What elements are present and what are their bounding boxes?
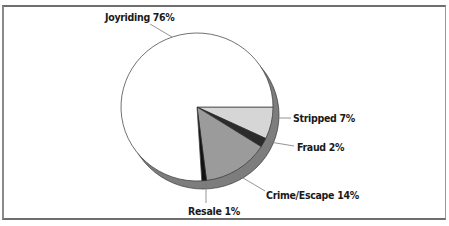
label-resale: Resale 1% (188, 205, 241, 217)
label-crime-escape: Crime/Escape 14% (266, 189, 360, 201)
pie-slices (121, 33, 273, 181)
label-joyriding: Joyriding 76% (104, 11, 175, 23)
label-stripped: Stripped 7% (293, 112, 356, 124)
leader-joyriding (150, 24, 172, 37)
leader-crime-escape (238, 175, 265, 191)
leader-fraud (270, 142, 294, 146)
label-fraud: Fraud 2% (297, 141, 345, 153)
pie-chart: Joyriding 76% Stripped 7% Fraud 2% Crime… (0, 0, 449, 226)
